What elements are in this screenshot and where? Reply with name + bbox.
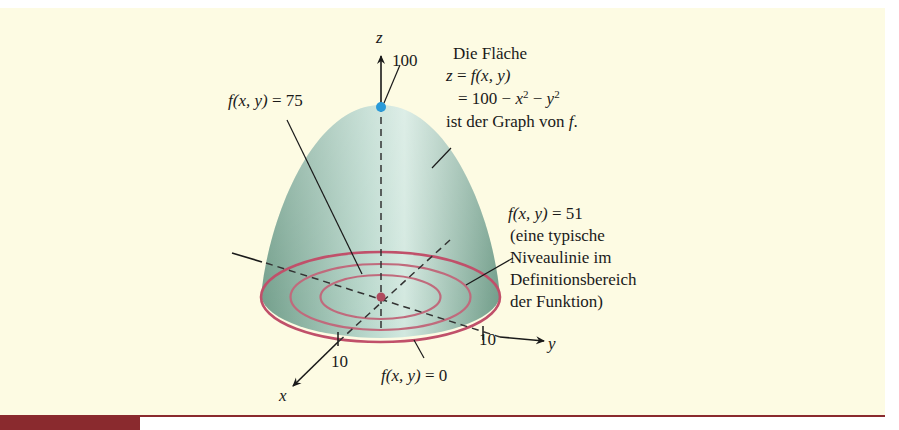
y-axis-label: y bbox=[548, 334, 556, 354]
level51-note-1: (eine typische bbox=[510, 226, 605, 246]
level51-note-4: der Funktion) bbox=[510, 292, 603, 312]
z-axis-label: z bbox=[376, 28, 383, 48]
level75-label: f(x, y) = 75 bbox=[228, 91, 303, 111]
x-axis-label: x bbox=[279, 386, 287, 406]
level51-note-3: Definitionsbereich bbox=[510, 270, 637, 290]
paraboloid-diagram bbox=[0, 0, 899, 430]
y-axis-back-segment bbox=[232, 253, 262, 262]
z-tick-label: 100 bbox=[392, 51, 418, 71]
leader-level0 bbox=[414, 340, 424, 358]
surface-equation-1: z = f(x, y) bbox=[446, 66, 510, 86]
y-axis-arrow bbox=[500, 337, 544, 341]
y-tick-label: 10 bbox=[479, 330, 496, 350]
level51-note-2: Niveaulinie im bbox=[510, 248, 612, 268]
surface-title: Die Fläche bbox=[453, 44, 527, 64]
surface-equation-2: = 100 − x2 − y2 bbox=[458, 89, 560, 109]
x-tick-label: 10 bbox=[331, 352, 348, 372]
level51-label: f(x, y) = 51 bbox=[508, 204, 583, 224]
bottom-tab-marker bbox=[0, 415, 140, 430]
peak-point bbox=[376, 102, 386, 112]
level0-label: f(x, y) = 0 bbox=[381, 366, 447, 386]
origin-point bbox=[377, 293, 386, 302]
surface-caption: ist der Graph von f. bbox=[446, 112, 578, 132]
